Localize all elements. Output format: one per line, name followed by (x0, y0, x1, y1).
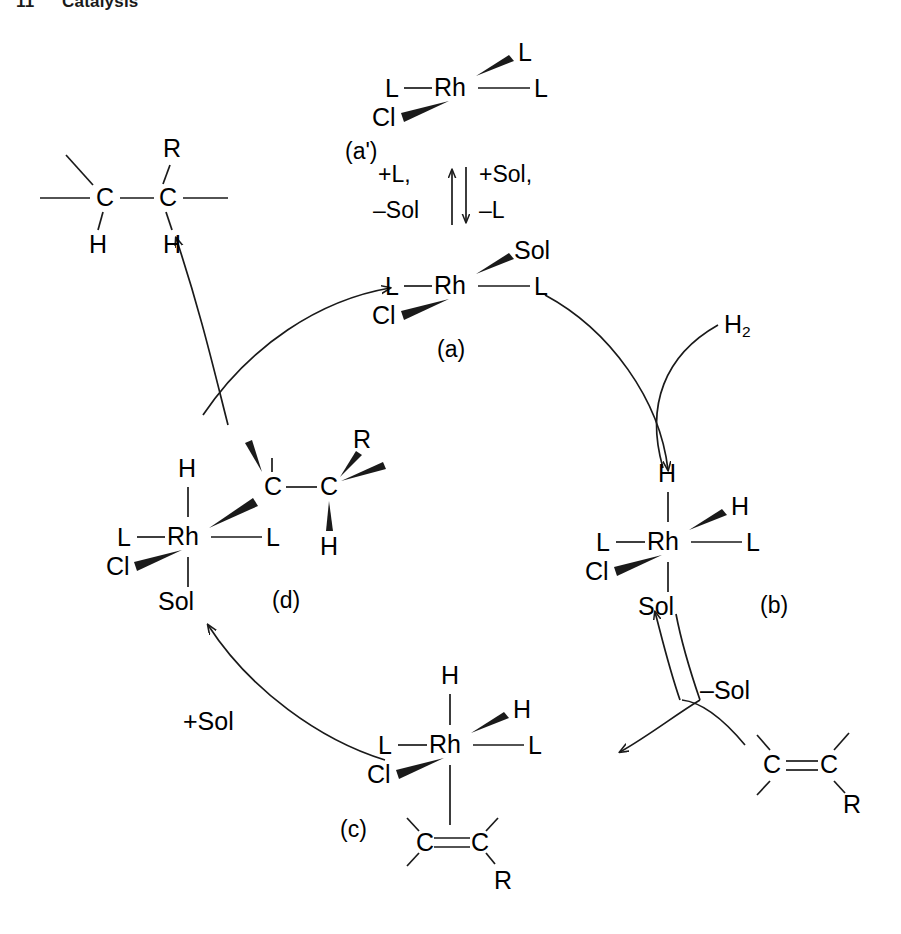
a-ligand-cl: Cl (372, 303, 396, 328)
b-center-atom: Rh (647, 529, 679, 554)
equilibrium-right-top: +Sol, (479, 163, 532, 186)
c-ligand-right: L (528, 733, 542, 758)
c-center-atom: Rh (429, 732, 461, 757)
a-ligand-right: L (534, 274, 548, 299)
a-prime-ligand-left: L (385, 76, 399, 101)
wedge-bond-H (471, 712, 509, 733)
wedge-bond-Cl (614, 555, 662, 576)
a-center-atom: Rh (434, 273, 466, 298)
structure-tag-d: (d) (272, 589, 300, 612)
d-ligand-sol: Sol (158, 589, 194, 614)
c-alkene-c2: C (471, 830, 489, 855)
c-ligand-top-h: H (441, 663, 459, 688)
substrate-alkene-c1: C (763, 752, 781, 777)
catalytic-cycle-diagram: L Rh L L Cl (a') +L, –Sol +Sol, –L L Rh … (0, 0, 901, 934)
a-prime-ligand-right: L (534, 76, 548, 101)
wedge-bond-Sol (476, 253, 514, 274)
wedge-bond-L (476, 55, 514, 76)
equilibrium-left-bottom: –Sol (373, 199, 419, 222)
d-ligand-cl: Cl (106, 554, 130, 579)
c-alkene-r: R (494, 868, 512, 893)
d-ligand-right: L (266, 525, 280, 550)
structure-tag-c: (c) (340, 818, 367, 841)
structure-d-bonds (134, 440, 386, 587)
product-h2: H (163, 232, 181, 257)
structure-tag-b: (b) (760, 594, 788, 617)
wedge-bond-Cl (401, 299, 449, 320)
diagram-vector-layer (0, 0, 901, 934)
label-plus-sol: +Sol (183, 709, 234, 734)
structure-tag-a-prime: (a') (345, 140, 378, 163)
d-center-atom: Rh (167, 524, 199, 549)
product-r: R (163, 136, 181, 161)
diagram-page: 11Catalysis (0, 0, 901, 934)
product-bonds (40, 155, 228, 230)
wedge-bond-methyl (245, 440, 262, 472)
a-prime-ligand-cl: Cl (372, 105, 396, 130)
cycle-arrow-d-to-product (176, 238, 228, 425)
c-ligand-cl: Cl (367, 762, 391, 787)
wedge-bond-Cl (401, 101, 449, 122)
structure-tag-a: (a) (437, 338, 465, 361)
b-ligand-wedge-h: H (731, 494, 749, 519)
b-ligand-cl: Cl (585, 559, 609, 584)
a-prime-center-atom: Rh (434, 75, 466, 100)
wedge-bond-H (689, 509, 727, 530)
a-ligand-left: L (385, 274, 399, 299)
equilibrium-right-bottom: –L (479, 199, 505, 222)
c-alkene-c1: C (416, 830, 434, 855)
b-ligand-left: L (596, 530, 610, 555)
wedge-bond-Cl (134, 550, 182, 571)
c-ligand-left: L (378, 733, 392, 758)
d-alkyl-h: H (320, 534, 338, 559)
product-c2: C (159, 185, 177, 210)
wedge-bond-alkyl (209, 498, 258, 528)
d-ligand-top-h: H (178, 456, 196, 481)
b-ligand-top-h: H (658, 461, 676, 486)
wedge-bond-Cl (396, 758, 444, 779)
b-ligand-sol: Sol (638, 594, 674, 619)
equilibrium-arrows (452, 167, 466, 225)
d-alkyl-c1: C (264, 474, 282, 499)
hydrogen-subscript: 2 (742, 323, 751, 340)
wedge-bond-H (326, 501, 333, 531)
reagent-hydrogen: H2 (724, 312, 751, 340)
alkene-feed-arrow (682, 700, 745, 745)
label-minus-sol: –Sol (700, 678, 750, 703)
equilibrium-left-top: +L, (378, 163, 411, 186)
hydrogen-symbol: H (724, 310, 742, 338)
cycle-arrow-c-to-d (208, 625, 385, 760)
cycle-arrow-a-to-b (545, 295, 668, 470)
substrate-alkene-r: R (843, 792, 861, 817)
d-ligand-left: L (117, 525, 131, 550)
cycle-arrow-b-to-c (620, 612, 700, 752)
cycle-arrow-to-a (203, 288, 390, 415)
d-alkyl-c2: C (320, 474, 338, 499)
c-ligand-wedge-h: H (513, 697, 531, 722)
product-h1: H (89, 232, 107, 257)
h2-feed-arrow (657, 325, 718, 468)
d-alkyl-r: R (353, 427, 371, 452)
substrate-alkene-c2: C (820, 752, 838, 777)
product-c1: C (96, 185, 114, 210)
a-ligand-sol: Sol (514, 238, 550, 263)
b-ligand-right: L (746, 530, 760, 555)
a-prime-ligand-wedge: L (518, 40, 532, 65)
